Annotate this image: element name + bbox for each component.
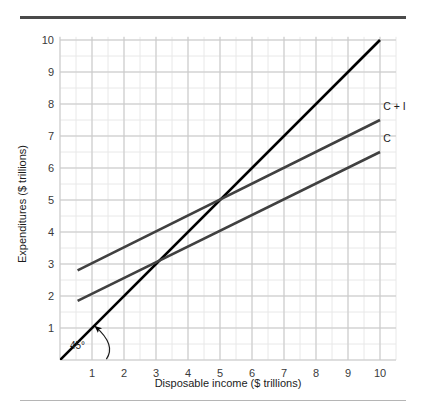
y-tick-label: 4 [28, 227, 54, 237]
x-tick-label: 5 [210, 368, 230, 378]
series-label-c: C [383, 132, 391, 144]
y-tick-label: 5 [28, 195, 54, 205]
line-c [78, 152, 380, 301]
grid-minor-lines [60, 37, 396, 360]
angle-label: 45° [70, 340, 85, 351]
x-tick-label: 10 [370, 368, 390, 378]
x-tick-label: 9 [338, 368, 358, 378]
y-tick-label: 2 [28, 291, 54, 301]
chart-canvas [0, 0, 426, 416]
y-tick-label: 3 [28, 259, 54, 269]
y-tick-label: 10 [28, 35, 54, 45]
figure-page: Expenditures ($ trillions) Disposable in… [0, 0, 426, 416]
x-tick-label: 8 [306, 368, 326, 378]
y-tick-label: 7 [28, 131, 54, 141]
y-tick-label: 9 [28, 67, 54, 77]
x-tick-label: 6 [242, 368, 262, 378]
x-tick-label: 3 [146, 368, 166, 378]
y-tick-label: 1 [28, 323, 54, 333]
x-tick-label: 1 [82, 368, 102, 378]
x-tick-label: 2 [114, 368, 134, 378]
x-tick-label: 7 [274, 368, 294, 378]
series-label-c-plus-i: C + I [383, 100, 405, 112]
y-tick-label: 6 [28, 163, 54, 173]
y-tick-label: 8 [28, 99, 54, 109]
expenditures-chart: Expenditures ($ trillions) Disposable in… [0, 0, 426, 416]
y-axis-label: Expenditures ($ trillions) [16, 104, 28, 304]
x-tick-label: 4 [178, 368, 198, 378]
angle-arrow-icon [95, 326, 109, 359]
